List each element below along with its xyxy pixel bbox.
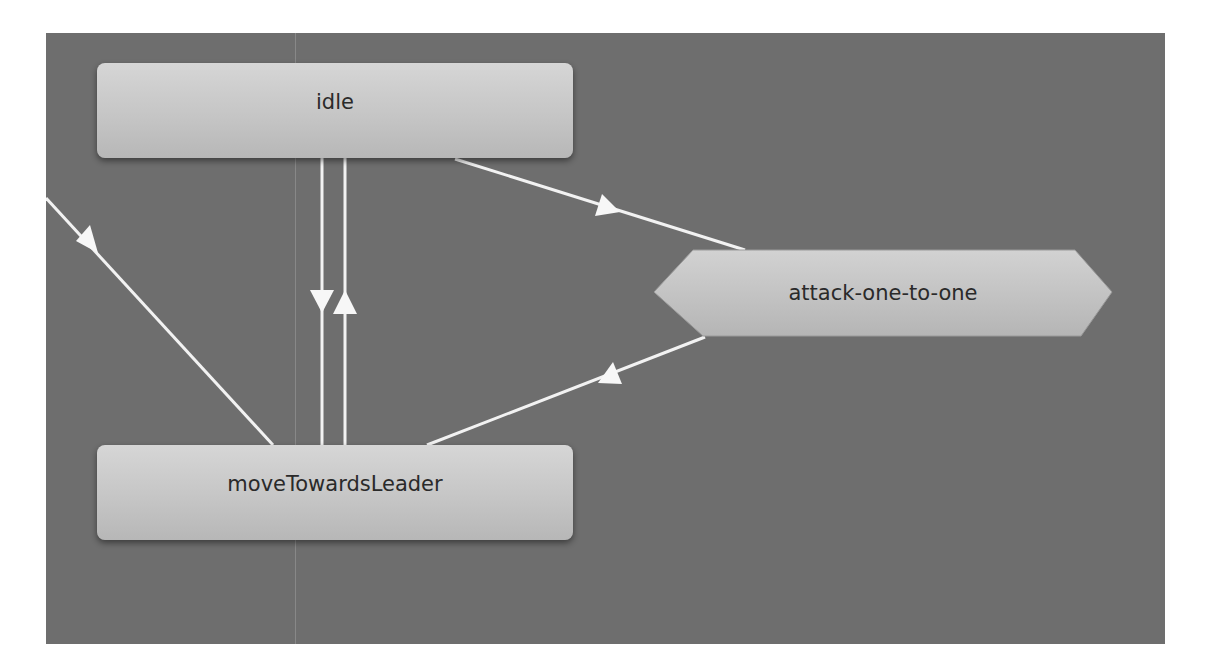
arrowhead-icon [76, 225, 98, 253]
state-label: attack-one-to-one [788, 281, 977, 305]
edge-offscreen-to-move[interactable] [46, 198, 273, 445]
state-node-move-towards-leader[interactable]: moveTowardsLeader [97, 445, 573, 540]
state-node-attack-one-to-one[interactable]: attack-one-to-one [653, 249, 1113, 337]
arrowhead-up-icon [333, 290, 357, 314]
arrowhead-icon [595, 194, 620, 216]
state-label: moveTowardsLeader [227, 472, 442, 496]
state-node-idle[interactable]: idle [97, 63, 573, 158]
edge-attack-to-move[interactable] [427, 337, 705, 445]
state-graph-canvas[interactable]: idle attack-one-to-one moveTowardsLeader [46, 33, 1165, 644]
arrowhead-icon [598, 362, 622, 384]
arrowhead-down-icon [310, 290, 334, 313]
state-label: idle [316, 90, 354, 114]
